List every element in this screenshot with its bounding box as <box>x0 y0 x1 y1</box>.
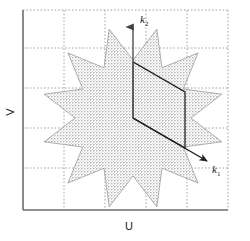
y-axis-label: V <box>4 108 16 116</box>
figure-container: k2 k1 U V <box>0 0 250 241</box>
diagram-canvas: k2 k1 U V <box>0 0 250 241</box>
x-axis-label: U <box>125 220 133 232</box>
